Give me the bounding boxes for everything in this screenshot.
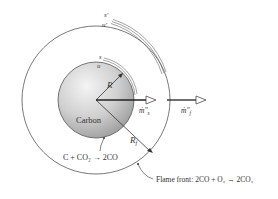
surface-reaction-label: C + CO₂ → 2CO bbox=[63, 153, 118, 162]
surface-flux-label: ṁ″s bbox=[139, 106, 150, 116]
outer-boundary-arcs bbox=[111, 20, 166, 75]
flame-reaction-leader-dot bbox=[137, 163, 139, 165]
surface-flux-arrowhead bbox=[146, 96, 156, 104]
inner-s-label: s bbox=[99, 53, 102, 60]
carbon-combustion-diagram: s′ u′ s u R Carbon Rf ṁ″s ṁ″f C + CO₂ → … bbox=[0, 0, 278, 199]
outer-u-label: u′ bbox=[102, 21, 108, 29]
radius-R-label: R bbox=[106, 80, 113, 90]
outer-s-label: s′ bbox=[104, 11, 109, 19]
flame-reaction-leader bbox=[138, 164, 153, 179]
radius-Rf-label: Rf bbox=[129, 135, 139, 146]
flame-flux-label: ṁ″f bbox=[181, 106, 193, 116]
surface-reaction-leader-dot bbox=[103, 137, 105, 139]
carbon-label: Carbon bbox=[76, 115, 102, 125]
surface-reaction-leader bbox=[100, 138, 104, 151]
flame-front-reaction-label: Flame front: 2CO + O₂ → 2CO₂ bbox=[156, 175, 254, 184]
flame-flux-arrowhead bbox=[196, 96, 206, 104]
